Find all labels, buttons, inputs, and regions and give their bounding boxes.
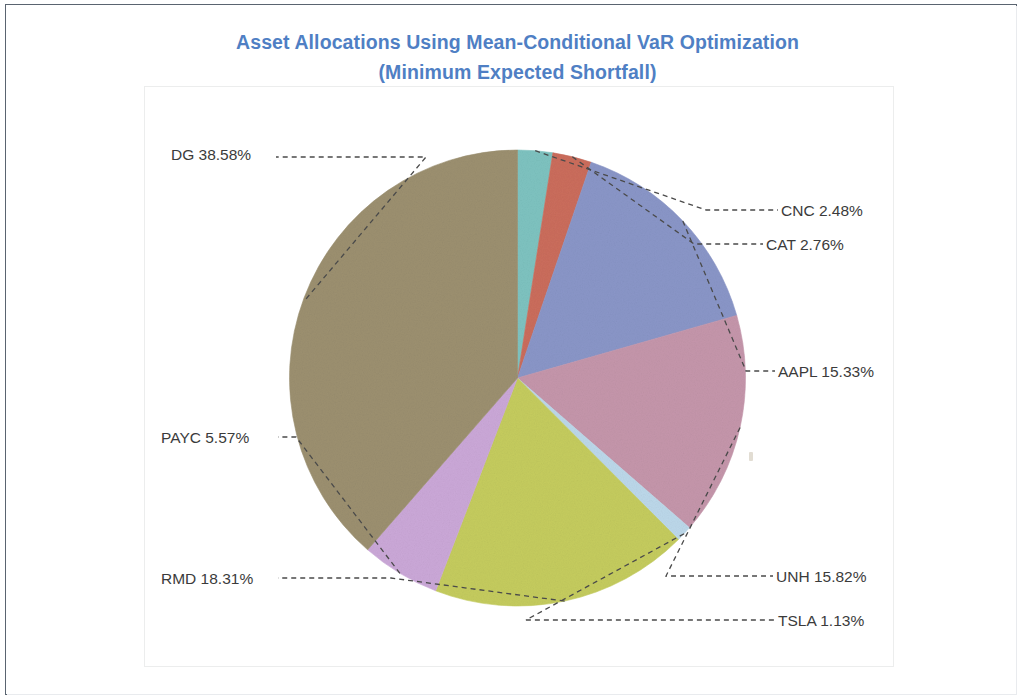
- pie-label-unh: UNH 15.82%: [776, 568, 866, 586]
- pie-label-cat: CAT 2.76%: [766, 236, 844, 254]
- chart-title-line-2: (Minimum Expected Shortfall): [6, 57, 1023, 87]
- pie-label-cnc: CNC 2.48%: [781, 202, 863, 220]
- page-frame: Asset Allocations Using Mean-Conditional…: [5, 4, 1017, 695]
- chart-title-line-1: Asset Allocations Using Mean-Conditional…: [236, 31, 799, 53]
- scan-artifact-speck: [749, 452, 753, 461]
- pie-label-dg: DG 38.58%: [171, 146, 251, 164]
- pie-label-tsla: TSLA 1.13%: [778, 612, 864, 630]
- pie-label-payc: PAYC 5.57%: [161, 429, 249, 447]
- pie-label-rmd: RMD 18.31%: [161, 570, 253, 588]
- pie-label-aapl: AAPL 15.33%: [778, 363, 874, 381]
- chart-title: Asset Allocations Using Mean-Conditional…: [6, 27, 1023, 87]
